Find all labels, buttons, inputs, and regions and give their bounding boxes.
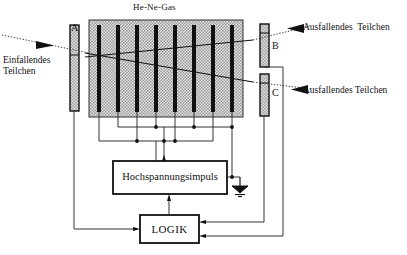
ground-symbol	[232, 177, 248, 197]
detector-c-label: C	[272, 87, 279, 99]
hochspannungsimpuls-label: Hochspannungsimpuls	[120, 171, 220, 183]
detector-c	[260, 74, 269, 116]
detector-a	[70, 25, 79, 111]
logik-label: LOGIK	[140, 223, 199, 236]
figure-canvas: He-Ne-Gas A B C Einfallendes Teilchen Au…	[0, 0, 407, 255]
electrode-plate	[192, 25, 196, 112]
electrode-plate	[154, 25, 158, 112]
outgoing-particle-label-upper: Ausfallendes Teilchen	[303, 22, 390, 33]
electrode-plate	[116, 25, 120, 112]
spark-chamber-diagram	[0, 0, 407, 255]
electrode-plate	[211, 25, 215, 112]
electrode-plate	[230, 25, 234, 112]
gas-label: He-Ne-Gas	[133, 2, 176, 12]
detector-b	[260, 24, 269, 67]
arrow-right-icon	[36, 41, 54, 49]
detector-b-label: B	[272, 40, 279, 52]
arrow-left-icon	[199, 234, 206, 238]
arrow-right-icon	[133, 227, 140, 231]
arrow-left-icon	[199, 220, 206, 224]
incoming-particle-label: Einfallendes Teilchen	[3, 55, 50, 77]
electrode-plate	[97, 25, 101, 112]
electrode-plate	[135, 25, 139, 112]
outgoing-particle-label-lower: Ausfallendes Teilchen	[303, 85, 387, 96]
arrow-up-icon	[167, 194, 171, 201]
gas-chamber	[89, 20, 243, 117]
arrow-left-icon	[287, 24, 304, 33]
detector-a-label: A	[71, 22, 78, 34]
